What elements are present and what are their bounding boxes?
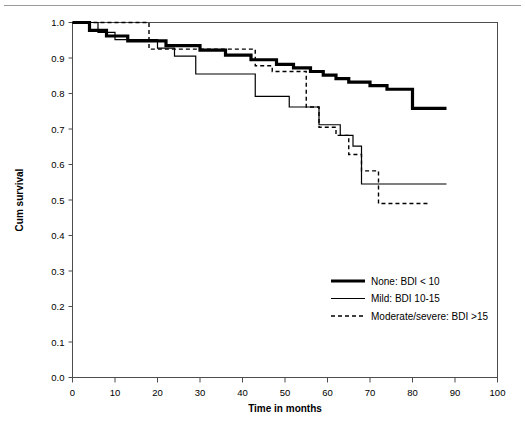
y-tick-label: 0.5 <box>51 195 64 206</box>
x-tick-label: 30 <box>195 387 206 398</box>
y-tick-label: 0.9 <box>51 53 64 64</box>
survival-curve-3 <box>73 23 430 204</box>
x-axis-tick-labels: 0102030405060708090100 <box>70 387 506 398</box>
chart-svg: 0.00.10.20.30.40.50.60.70.80.91.0 010203… <box>0 0 525 432</box>
legend-item-2: Mild: BDI 10-15 <box>331 293 440 304</box>
y-tick-label: 1.0 <box>51 17 64 28</box>
survival-curves <box>73 23 447 204</box>
x-tick-label: 20 <box>152 387 163 398</box>
x-tick-label: 50 <box>280 387 291 398</box>
legend-item-3: Moderate/severe: BDI >15 <box>331 311 488 322</box>
y-axis-title: Cum survival <box>14 168 25 231</box>
y-tick-label: 0.3 <box>51 266 64 277</box>
x-tick-label: 10 <box>110 387 121 398</box>
y-tick-label: 0.2 <box>51 301 64 312</box>
x-tick-label: 70 <box>365 387 376 398</box>
y-tick-label: 0.1 <box>51 337 64 348</box>
legend-label: None: BDI < 10 <box>371 276 440 287</box>
x-tick-label: 80 <box>407 387 418 398</box>
legend-item-1: None: BDI < 10 <box>331 276 440 287</box>
x-tick-label: 40 <box>237 387 248 398</box>
chart-legend: None: BDI < 10Mild: BDI 10-15Moderate/se… <box>331 276 488 322</box>
y-axis-tick-labels: 0.00.10.20.30.40.50.60.70.80.91.0 <box>51 17 64 383</box>
x-tick-label: 0 <box>70 387 75 398</box>
x-axis-ticks <box>73 378 498 383</box>
y-tick-label: 0.7 <box>51 124 64 135</box>
legend-label: Moderate/severe: BDI >15 <box>371 311 488 322</box>
x-tick-label: 90 <box>450 387 461 398</box>
x-tick-label: 60 <box>322 387 333 398</box>
plot-frame <box>73 23 498 378</box>
y-tick-label: 0.8 <box>51 88 64 99</box>
y-tick-label: 0.6 <box>51 159 64 170</box>
y-axis-ticks <box>69 23 73 378</box>
survival-curve-2 <box>73 23 447 185</box>
legend-label: Mild: BDI 10-15 <box>371 293 440 304</box>
survival-curve-1 <box>73 23 447 109</box>
x-axis-title: Time in months <box>248 403 322 414</box>
survival-chart-figure: 0.00.10.20.30.40.50.60.70.80.91.0 010203… <box>0 0 525 432</box>
x-tick-label: 100 <box>490 387 506 398</box>
y-tick-label: 0.4 <box>51 230 64 241</box>
y-tick-label: 0.0 <box>51 372 64 383</box>
